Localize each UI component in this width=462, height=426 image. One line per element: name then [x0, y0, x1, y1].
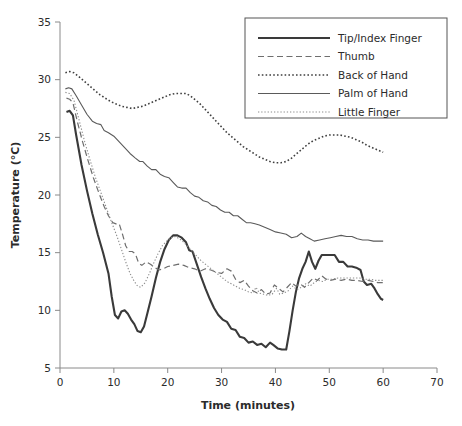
- legend-label-5: Little Finger: [338, 106, 401, 118]
- chart-container: 5101520253035 010203040506070 Temperatur…: [0, 0, 462, 426]
- series-line-thumb: [66, 98, 383, 294]
- legend-label-4: Palm of Hand: [338, 87, 408, 99]
- y-tick-label: 10: [38, 304, 51, 316]
- x-axis-title: Time (minutes): [201, 399, 295, 412]
- temperature-line-chart: 5101520253035 010203040506070 Temperatur…: [0, 0, 462, 426]
- x-tick-label: 50: [323, 376, 336, 388]
- x-tick-label: 70: [430, 376, 443, 388]
- x-axis-ticks: 010203040506070: [57, 368, 444, 388]
- y-axis-ticks: 5101520253035: [38, 16, 60, 374]
- x-tick-label: 40: [269, 376, 282, 388]
- x-tick-label: 10: [107, 376, 120, 388]
- legend: Tip/Index FingerThumbBack of HandPalm of…: [245, 18, 447, 118]
- x-tick-label: 20: [161, 376, 174, 388]
- legend-label-3: Back of Hand: [338, 69, 408, 81]
- y-tick-label: 35: [38, 16, 51, 28]
- y-axis-title: Temperature (°C): [9, 142, 22, 249]
- y-tick-label: 30: [38, 73, 51, 85]
- y-tick-label: 15: [38, 246, 51, 258]
- legend-label-2: Thumb: [337, 50, 375, 62]
- x-tick-label: 0: [57, 376, 64, 388]
- y-tick-label: 20: [38, 189, 51, 201]
- x-tick-label: 30: [215, 376, 228, 388]
- legend-label-1: Tip/Index Finger: [337, 32, 422, 44]
- series-line-tip-index-finger: [66, 111, 383, 350]
- y-tick-label: 25: [38, 131, 51, 143]
- series-line-little-finger: [65, 92, 383, 295]
- x-tick-label: 60: [376, 376, 389, 388]
- y-tick-label: 5: [44, 362, 51, 374]
